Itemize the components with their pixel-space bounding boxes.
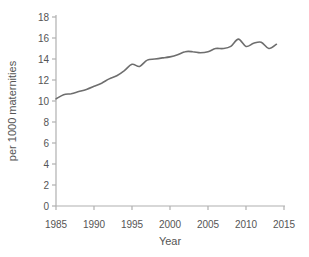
y-tick-label: 6 [43, 138, 49, 149]
x-axis: 1985199019952000200520102015 [45, 206, 296, 230]
y-tick-label: 4 [43, 159, 49, 170]
y-tick-label: 10 [38, 96, 50, 107]
chart-svg: 024681012141618 198519901995200020052010… [0, 0, 309, 257]
y-tick-label: 18 [38, 12, 50, 23]
y-tick-label: 12 [38, 75, 50, 86]
y-axis: 024681012141618 [38, 12, 56, 212]
line-chart-figure: 024681012141618 198519901995200020052010… [0, 0, 309, 257]
x-tick-label: 2015 [273, 219, 296, 230]
y-tick-label: 8 [43, 117, 49, 128]
y-axis-title: per 1000 maternities [6, 60, 18, 161]
y-tick-label: 16 [38, 33, 50, 44]
y-tick-label: 2 [43, 180, 49, 191]
y-tick-label: 14 [38, 54, 50, 65]
y-tick-label: 0 [43, 201, 49, 212]
x-tick-label: 2000 [159, 219, 182, 230]
x-tick-label: 1990 [83, 219, 106, 230]
data-line [56, 39, 276, 99]
x-axis-title: Year [159, 235, 182, 247]
x-tick-label: 2010 [235, 219, 258, 230]
x-tick-label: 2005 [197, 219, 220, 230]
x-tick-label: 1995 [121, 219, 144, 230]
x-tick-label: 1985 [45, 219, 68, 230]
